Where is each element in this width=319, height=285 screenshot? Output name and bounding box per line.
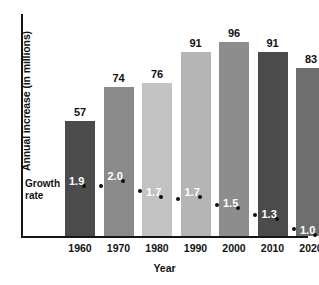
bar[interactable] (104, 87, 134, 236)
growth-rate-value-label: 1.7 (185, 186, 200, 198)
x-axis-line (21, 236, 308, 238)
chart-figure: Annual increase (in millions) Growth rat… (0, 0, 319, 285)
growth-rate-connector-dot (292, 227, 296, 231)
bar-value-label: 57 (65, 106, 95, 118)
x-axis-title: Year (21, 262, 308, 274)
growth-rate-value-label: 2.0 (108, 170, 123, 182)
growth-rate-value-label: 1.0 (300, 224, 315, 236)
growth-rate-connector-dot (176, 197, 180, 201)
growth-rate-connector-dot (99, 184, 103, 188)
bar[interactable] (181, 52, 211, 236)
x-tick-label: 1970 (99, 242, 139, 254)
growth-rate-value-label: 1.3 (262, 208, 277, 220)
growth-rate-connector-dot (138, 189, 142, 193)
bar-value-label: 76 (142, 68, 172, 80)
growth-rate-value-label: 1.9 (69, 175, 84, 187)
x-tick-label: 2020 (291, 242, 319, 254)
growth-rate-connector-dot (253, 213, 257, 217)
bar-value-label: 91 (258, 37, 288, 49)
growth-rate-connector-dot (215, 203, 219, 207)
bar[interactable] (296, 68, 319, 236)
plot-area: 577476919691831.92.01.71.71.51.31.0 (23, 14, 308, 236)
x-tick-label: 1980 (137, 242, 177, 254)
growth-rate-value-label: 1.5 (223, 197, 238, 209)
x-tick-label: 1960 (60, 242, 100, 254)
bar-value-label: 96 (219, 27, 249, 39)
x-tick-label: 2010 (253, 242, 293, 254)
growth-rate-value-label: 1.7 (146, 186, 161, 198)
bar-value-label: 83 (296, 53, 319, 65)
bar[interactable] (142, 83, 172, 236)
bar-value-label: 74 (104, 72, 134, 84)
bar-value-label: 91 (181, 37, 211, 49)
x-tick-label: 1990 (176, 242, 216, 254)
x-tick-label: 2000 (214, 242, 254, 254)
